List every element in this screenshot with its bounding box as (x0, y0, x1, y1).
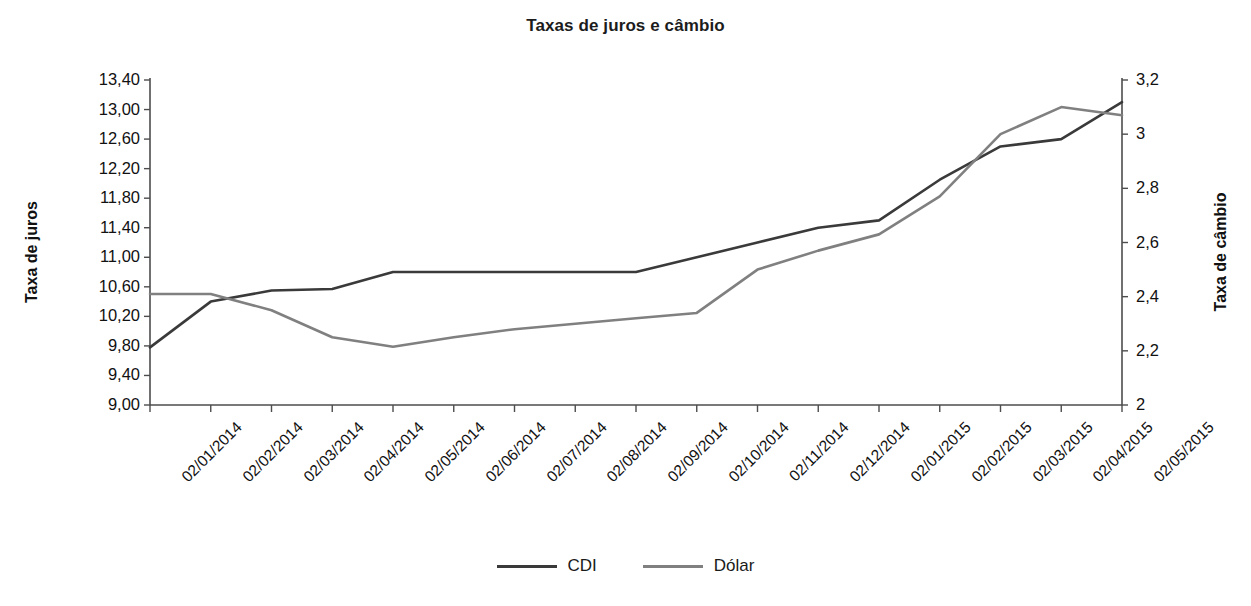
y-axis-right-tick-label: 2,4 (1136, 288, 1196, 305)
y-axis-left-tick-label: 13,00 (58, 101, 140, 118)
series-line-cdi (150, 102, 1122, 347)
y-axis-left-tick-label: 11,40 (58, 219, 140, 236)
y-axis-right-tick-label: 2 (1136, 396, 1196, 413)
chart-container: Taxas de juros e câmbio Taxa de juros Ta… (0, 0, 1251, 606)
y-axis-left-tick-label: 11,00 (58, 248, 140, 265)
y-axis-left-tick-label: 12,60 (58, 130, 140, 147)
legend-label: Dólar (714, 556, 755, 576)
y-axis-right-tick-label: 2,2 (1136, 342, 1196, 359)
y-axis-left-tick-label: 11,80 (58, 189, 140, 206)
y-axis-left-tick-label: 9,80 (58, 337, 140, 354)
tick-marks (144, 80, 1128, 412)
legend-line-swatch (497, 565, 557, 568)
series-line-dólar (150, 107, 1122, 347)
y-axis-right-tick-label: 2,6 (1136, 234, 1196, 251)
axis-lines (150, 78, 1122, 405)
y-axis-left-tick-label: 9,00 (58, 396, 140, 413)
legend-item[interactable]: CDI (497, 556, 597, 576)
y-axis-left-tick-label: 9,40 (58, 366, 140, 383)
legend-label: CDI (568, 556, 597, 576)
y-axis-left-tick-label: 10,60 (58, 278, 140, 295)
y-axis-right-tick-label: 3,2 (1136, 71, 1196, 88)
plot-area (0, 0, 1251, 606)
chart-legend: CDIDólar (0, 556, 1251, 576)
legend-line-swatch (643, 565, 703, 568)
y-axis-right-tick-label: 3 (1136, 125, 1196, 142)
y-axis-right-tick-label: 2,8 (1136, 179, 1196, 196)
y-axis-left-tick-label: 12,20 (58, 160, 140, 177)
legend-item[interactable]: Dólar (643, 556, 755, 576)
series-lines (150, 102, 1122, 347)
y-axis-left-tick-label: 10,20 (58, 307, 140, 324)
y-axis-left-tick-label: 13,40 (58, 71, 140, 88)
